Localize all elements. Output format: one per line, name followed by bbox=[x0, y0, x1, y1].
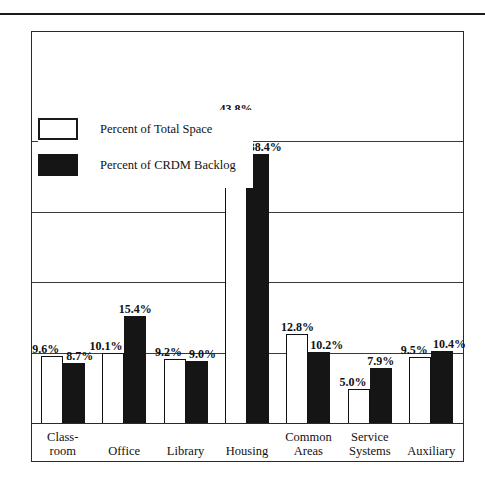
category-label: Library bbox=[155, 444, 216, 458]
category-label-line: Auxiliary bbox=[401, 444, 462, 458]
category-label-line: Systems bbox=[339, 444, 400, 458]
category-label: Auxiliary bbox=[401, 444, 462, 458]
legend-swatch-open bbox=[38, 118, 78, 140]
bar-group: 12.8%10.2% bbox=[286, 72, 330, 424]
bar-open[interactable]: 12.8% bbox=[286, 334, 308, 424]
category-label-line: Common bbox=[278, 430, 339, 444]
category-label: Class-room bbox=[32, 430, 93, 458]
legend-swatch-filled bbox=[38, 154, 78, 176]
legend-label-crdm-backlog: Percent of CRDM Backlog bbox=[100, 159, 236, 172]
bar-filled[interactable]: 9.0% bbox=[186, 361, 208, 424]
bar-value-label: 9.0% bbox=[189, 348, 216, 360]
category-label-line: Class- bbox=[32, 430, 93, 444]
category-label: CommonAreas bbox=[278, 430, 339, 458]
bar-value-label: 38.4% bbox=[249, 141, 282, 153]
category-label: ServiceSystems bbox=[339, 430, 400, 458]
bar-value-label: 10.4% bbox=[433, 338, 466, 350]
category-label-line: Library bbox=[155, 444, 216, 458]
bar-value-label: 9.5% bbox=[401, 344, 428, 356]
bar-value-label: 9.2% bbox=[155, 346, 182, 358]
bar-value-label: 7.9% bbox=[367, 355, 394, 367]
bar-open[interactable]: 9.2% bbox=[164, 359, 186, 424]
bars-layer: 9.6%8.7%10.1%15.4%9.2%9.0%43.8%38.4%12.8… bbox=[32, 32, 463, 461]
category-label-line: room bbox=[32, 444, 93, 458]
bar-value-label: 5.0% bbox=[339, 376, 366, 388]
category-label-line: Office bbox=[93, 444, 154, 458]
bar-group: 5.0%7.9% bbox=[348, 72, 392, 424]
bar-value-label: 12.8% bbox=[281, 321, 314, 333]
bar-filled[interactable]: 7.9% bbox=[370, 368, 392, 424]
bar-filled[interactable]: 15.4% bbox=[124, 316, 146, 424]
bar-value-label: 10.1% bbox=[89, 340, 122, 352]
category-label-line: Areas bbox=[278, 444, 339, 458]
bar-value-label: 15.4% bbox=[119, 303, 152, 315]
bar-value-label: 9.6% bbox=[32, 343, 59, 355]
category-label-band: Class-roomOfficeLibraryHousingCommonArea… bbox=[32, 423, 463, 461]
category-label: Housing bbox=[216, 444, 277, 458]
legend-item-crdm-backlog: Percent of CRDM Backlog bbox=[38, 154, 236, 176]
bar-filled[interactable]: 10.2% bbox=[308, 352, 330, 424]
bar-filled[interactable]: 10.4% bbox=[431, 351, 453, 424]
category-label: Office bbox=[93, 444, 154, 458]
bar-filled[interactable]: 38.4% bbox=[247, 154, 269, 424]
bar-filled[interactable]: 8.7% bbox=[63, 363, 85, 424]
bar-group: 9.5%10.4% bbox=[409, 72, 453, 424]
plot-area: 9.6%8.7%10.1%15.4%9.2%9.0%43.8%38.4%12.8… bbox=[32, 32, 463, 461]
category-label-line: Housing bbox=[216, 444, 277, 458]
bar-open[interactable]: 9.6% bbox=[41, 356, 63, 424]
chart-frame: 9.6%8.7%10.1%15.4%9.2%9.0%43.8%38.4%12.8… bbox=[31, 31, 464, 462]
bar-open[interactable]: 10.1% bbox=[102, 353, 124, 424]
bar-open[interactable]: 5.0% bbox=[348, 389, 370, 424]
legend-label-total-space: Percent of Total Space bbox=[100, 123, 212, 136]
bar-value-label: 10.2% bbox=[310, 339, 343, 351]
legend-item-total-space: Percent of Total Space bbox=[38, 118, 212, 140]
top-horizontal-rule bbox=[0, 13, 485, 15]
category-label-line: Service bbox=[339, 430, 400, 444]
bar-open[interactable]: 9.5% bbox=[409, 357, 431, 424]
chart-legend: Percent of Total Space Percent of CRDM B… bbox=[38, 110, 253, 188]
